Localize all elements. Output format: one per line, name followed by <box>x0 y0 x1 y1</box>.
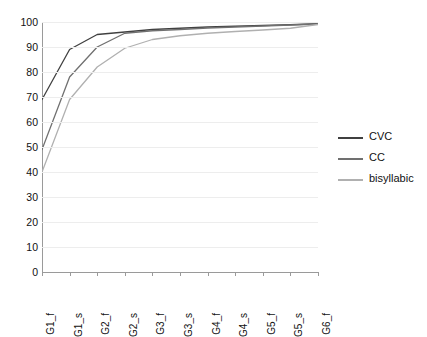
gridline <box>42 47 318 48</box>
x-axis-tick-mark <box>235 273 236 276</box>
x-axis-tick-mark <box>263 273 264 276</box>
gridline <box>42 122 318 123</box>
y-axis-tick-label: 80 <box>4 67 38 77</box>
chart-legend: CVCCCbisyllabic <box>338 128 427 191</box>
x-axis-tick-mark <box>318 273 319 276</box>
gridline <box>42 222 318 223</box>
legend-item-label: CVC <box>369 130 392 143</box>
y-axis-tick-label: 60 <box>4 117 38 127</box>
gridline <box>42 97 318 98</box>
x-axis-tick-mark <box>42 273 43 276</box>
legend-item[interactable]: CC <box>338 149 427 170</box>
x-axis-tick-label: G1_s <box>74 313 84 337</box>
x-axis-tick-mark <box>152 273 153 276</box>
gridline <box>42 247 318 248</box>
x-axis-tick-label: G5_f <box>267 313 277 335</box>
y-axis-tick-label: 100 <box>4 17 38 27</box>
legend-item[interactable]: CVC <box>338 128 427 149</box>
y-axis-tick-label: 0 <box>4 267 38 277</box>
y-axis-tick-labels: 1009080706050403020100 <box>0 0 38 317</box>
x-axis-tick-label: G6_f <box>322 313 332 335</box>
x-axis-tick-label: G3_s <box>184 313 194 337</box>
x-axis-tick-label: G4_s <box>239 313 249 337</box>
x-axis-tick-label: G2_s <box>129 313 139 337</box>
legend-item-label: CC <box>369 151 385 164</box>
x-axis-tick-label: G3_f <box>156 313 166 335</box>
series-line <box>42 24 318 150</box>
gridline <box>42 72 318 73</box>
y-axis-tick-label: 70 <box>4 92 38 102</box>
y-axis-tick-label: 40 <box>4 167 38 177</box>
y-axis-tick-label: 30 <box>4 192 38 202</box>
x-axis-tick-label: G2_f <box>101 313 111 335</box>
x-axis-tick-label: G1_f <box>46 313 56 335</box>
y-axis-tick-label: 10 <box>4 242 38 252</box>
gridline <box>42 22 318 23</box>
x-axis-tick-mark <box>208 273 209 276</box>
gridline <box>42 197 318 198</box>
x-axis-tick-mark <box>70 273 71 276</box>
x-axis-tick-mark <box>125 273 126 276</box>
legend-item-label: bisyllabic <box>369 172 414 185</box>
gridline <box>42 172 318 173</box>
x-axis-tick-label: G4_f <box>212 313 222 335</box>
x-axis-tick-mark <box>180 273 181 276</box>
x-axis-tick-labels: G1_fG1_sG2_fG2_sG3_fG3_sG4_fG4_sG5_fG5_s… <box>42 273 319 317</box>
legend-line-swatch <box>338 137 363 139</box>
y-axis-tick-label: 20 <box>4 217 38 227</box>
plot-area <box>42 22 318 272</box>
x-axis-tick-mark <box>97 273 98 276</box>
legend-line-swatch <box>338 179 363 181</box>
y-axis-tick-label: 90 <box>4 42 38 52</box>
y-axis-tick-label: 50 <box>4 142 38 152</box>
legend-line-swatch <box>338 158 363 160</box>
x-axis-tick-mark <box>290 273 291 276</box>
gridline <box>42 147 318 148</box>
x-axis-tick-label: G5_s <box>294 313 304 337</box>
legend-item[interactable]: bisyllabic <box>338 170 427 191</box>
